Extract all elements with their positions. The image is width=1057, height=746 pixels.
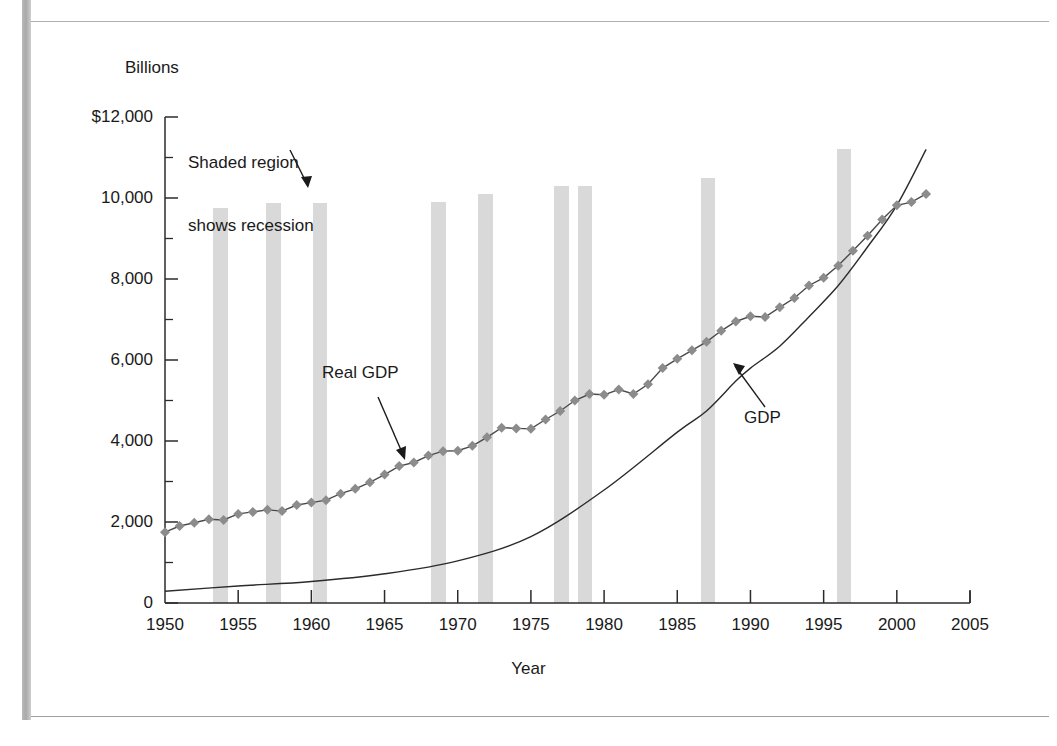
x-tick-label: 1960 bbox=[292, 615, 330, 635]
real-gdp-marker bbox=[394, 461, 404, 471]
real-gdp-marker bbox=[541, 415, 551, 425]
real-gdp-marker bbox=[570, 396, 580, 406]
real-gdp-marker bbox=[409, 457, 419, 467]
real-gdp-marker bbox=[160, 527, 170, 537]
real-gdp-marker bbox=[497, 423, 507, 433]
real-gdp-marker bbox=[453, 446, 463, 456]
real-gdp-marker bbox=[292, 500, 302, 510]
real-gdp-marker bbox=[687, 345, 697, 355]
x-tick-label: 2005 bbox=[951, 615, 989, 635]
real-gdp-marker bbox=[336, 489, 346, 499]
real-gdp-marker bbox=[760, 312, 770, 322]
recession-annotation: Shaded region shows recession bbox=[188, 110, 314, 278]
y-tick-label: 0 bbox=[144, 593, 153, 613]
real-gdp-marker bbox=[233, 509, 243, 519]
real-gdp-marker bbox=[921, 189, 931, 199]
real-gdp-marker bbox=[482, 432, 492, 442]
real-gdp-marker bbox=[526, 424, 536, 434]
y-tick-label: 8,000 bbox=[110, 269, 153, 289]
y-tick-label: 2,000 bbox=[110, 512, 153, 532]
real-gdp-marker bbox=[775, 302, 785, 312]
real-gdp-marker bbox=[511, 423, 521, 433]
y-tick-label: $12,000 bbox=[92, 107, 153, 127]
real-gdp-annotation-arrowhead bbox=[396, 446, 406, 460]
real-gdp-marker bbox=[380, 470, 390, 480]
real-gdp-marker bbox=[584, 389, 594, 399]
real-gdp-marker bbox=[745, 311, 755, 321]
x-tick-label: 1985 bbox=[658, 615, 696, 635]
real-gdp-marker bbox=[467, 441, 477, 451]
real-gdp-marker bbox=[555, 406, 565, 416]
page-frame: Billions Year $12,00010,0008,0006,0004,0… bbox=[0, 0, 1057, 746]
real-gdp-marker bbox=[906, 197, 916, 207]
real-gdp-marker bbox=[438, 446, 448, 456]
real-gdp-marker bbox=[262, 505, 272, 515]
x-tick-label: 1975 bbox=[512, 615, 550, 635]
real-gdp-marker bbox=[672, 354, 682, 364]
gdp-annotation: GDP bbox=[744, 407, 781, 428]
real-gdp-marker bbox=[614, 385, 624, 395]
y-tick-label: 10,000 bbox=[101, 188, 153, 208]
x-tick-label: 1980 bbox=[585, 615, 623, 635]
real-gdp-marker bbox=[731, 317, 741, 327]
real-gdp-marker bbox=[365, 477, 375, 487]
gdp-chart: Billions Year $12,00010,0008,0006,0004,0… bbox=[0, 0, 1057, 746]
y-tick-label: 6,000 bbox=[110, 350, 153, 370]
y-tick-label: 4,000 bbox=[110, 431, 153, 451]
real-gdp-marker bbox=[204, 514, 214, 524]
x-tick-label: 1995 bbox=[805, 615, 843, 635]
real-gdp-marker bbox=[716, 326, 726, 336]
real-gdp-marker bbox=[599, 390, 609, 400]
real-gdp-marker bbox=[350, 484, 360, 494]
real-gdp-marker bbox=[277, 506, 287, 516]
real-gdp-marker bbox=[306, 498, 316, 508]
real-gdp-annotation: Real GDP bbox=[322, 362, 399, 383]
real-gdp-marker bbox=[219, 515, 229, 525]
gdp-annotation-arrowhead bbox=[733, 363, 745, 375]
x-tick-label: 2000 bbox=[878, 615, 916, 635]
real-gdp-marker bbox=[321, 495, 331, 505]
x-tick-label: 1965 bbox=[366, 615, 404, 635]
annotation-arrows bbox=[290, 150, 765, 460]
x-tick-label: 1990 bbox=[732, 615, 770, 635]
real-gdp-annotation-arrow-line bbox=[378, 397, 404, 457]
real-gdp-marker bbox=[248, 507, 258, 517]
recession-annotation-line2: shows recession bbox=[188, 215, 314, 236]
x-tick-label: 1955 bbox=[219, 615, 257, 635]
real-gdp-marker bbox=[423, 451, 433, 461]
real-gdp-marker bbox=[189, 518, 199, 528]
x-tick-label: 1950 bbox=[146, 615, 184, 635]
recession-annotation-line1: Shaded region bbox=[188, 152, 314, 173]
x-tick-label: 1970 bbox=[439, 615, 477, 635]
real-gdp-marker bbox=[628, 389, 638, 399]
